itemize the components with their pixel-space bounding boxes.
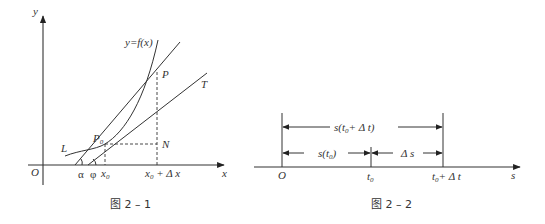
tick-t0-dt-label: t0+ Δ t: [432, 170, 462, 184]
point-n-label: N: [161, 138, 170, 150]
curve-f: [65, 40, 158, 156]
angle-alpha-arc: [81, 159, 82, 165]
span-total-label: s(t0+ Δ t): [334, 121, 375, 135]
origin-label: O: [278, 169, 286, 181]
tick-t0-label: t0: [367, 170, 374, 184]
angle-phi-arc: [93, 159, 96, 165]
figure-2-1: y x O y=f(x) L P0 P N T α φ x0 x0 + Δ x …: [28, 5, 227, 211]
angle-phi-label: φ: [90, 168, 96, 180]
figure-caption: 图 2 – 1: [110, 198, 151, 211]
point-p-label: P: [161, 68, 169, 80]
tick-x0-dx-label: x0 + Δ x: [144, 167, 180, 181]
tangent-label: T: [201, 78, 208, 90]
curve-label: y=f(x): [124, 36, 153, 49]
figure-caption: 图 2 – 2: [371, 198, 412, 211]
y-axis-label: y: [32, 5, 38, 17]
x-axis-label: x: [221, 167, 227, 179]
diagram-canvas: y x O y=f(x) L P0 P N T α φ x0 x0 + Δ x …: [0, 0, 545, 224]
span-delta-label: Δ s: [400, 147, 414, 159]
tangent-line: [88, 73, 207, 165]
s-axis-label: s: [511, 169, 515, 181]
tick-x0-label: x0: [100, 167, 110, 181]
curve-name-label: L: [60, 142, 67, 154]
angle-alpha-label: α: [78, 168, 84, 180]
span-first-label: s(t0): [318, 147, 337, 161]
figure-2-2: s s(t0+ Δ t) s(t0) Δ s O t0 t0+ Δ t 图 2 …: [254, 113, 520, 211]
origin-label: O: [31, 166, 39, 178]
